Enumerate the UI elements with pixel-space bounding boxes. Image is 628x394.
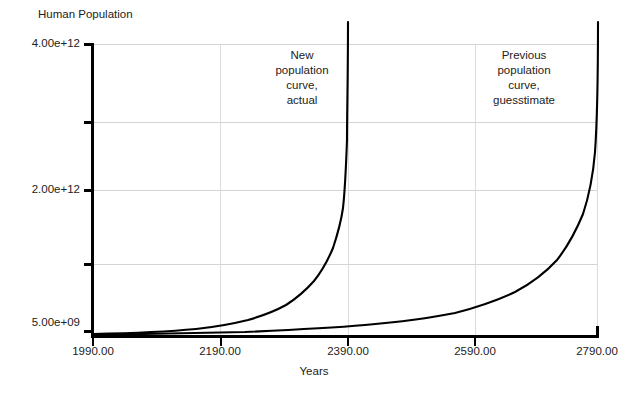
annotation-line: New xyxy=(254,48,350,63)
x-axis-tick-label: 2390.00 xyxy=(298,345,398,357)
x-axis-title: Years xyxy=(0,365,628,377)
gridline-vertical xyxy=(220,44,221,337)
y-axis-tick xyxy=(84,263,94,266)
annotation-line: population xyxy=(254,63,350,78)
population-growth-chart: Human Population 4.00e+12 2.00e+12 5.00e… xyxy=(0,0,628,394)
x-axis-tick xyxy=(596,326,599,338)
y-axis-tick xyxy=(84,43,94,46)
annotation-line: Previous xyxy=(476,48,572,63)
x-axis-tick-label: 2590.00 xyxy=(425,345,525,357)
annotation-previous-population-curve: Previous population curve, guesstimate xyxy=(476,48,572,108)
page-title: Human Population xyxy=(38,8,133,20)
annotation-line: guesstimate xyxy=(476,93,572,108)
y-axis-tick xyxy=(84,121,94,124)
y-axis-tick xyxy=(84,189,94,192)
annotation-line: population xyxy=(476,63,572,78)
y-axis-tick xyxy=(84,330,94,333)
x-axis-spine xyxy=(91,335,599,338)
y-axis-tick-label: 2.00e+12 xyxy=(0,183,80,195)
gridline-vertical xyxy=(597,44,598,337)
annotation-line: curve, xyxy=(476,78,572,93)
y-axis-tick-label: 5.00e+09 xyxy=(0,316,80,328)
gridline-horizontal xyxy=(93,264,598,265)
annotation-line: actual xyxy=(254,93,350,108)
gridline-horizontal xyxy=(93,190,598,191)
x-axis-tick-label: 1990.00 xyxy=(43,345,143,357)
x-axis-tick-label: 2190.00 xyxy=(170,345,270,357)
y-axis-tick-label: 4.00e+12 xyxy=(0,37,80,49)
annotation-new-population-curve: New population curve, actual xyxy=(254,48,350,108)
annotation-line: curve, xyxy=(254,78,350,93)
gridline-horizontal xyxy=(93,44,598,45)
x-axis-tick-label: 2790.00 xyxy=(547,345,628,357)
gridline-horizontal xyxy=(93,122,598,123)
